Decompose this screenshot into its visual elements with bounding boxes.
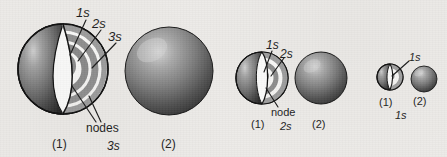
label-orbital-2s: 2s: [280, 121, 292, 132]
label-orbital-3s: 3s: [107, 140, 120, 152]
solid-sphere-1s: [411, 66, 437, 92]
figure-canvas: 1s 2s 3s nodes (1) (2) 3s 1s 2s node (1)…: [0, 0, 447, 157]
label-shell-3s-group-3s: 3s: [108, 30, 122, 43]
label-shell-2s-group-2s: 2s: [280, 48, 293, 60]
label-panel-2-group-2s: (2): [312, 119, 325, 130]
group-1s-cutaway-sphere: [376, 62, 406, 92]
label-node-group-2s: node: [271, 107, 295, 118]
label-shell-1s-group-1s: 1s: [409, 52, 421, 63]
label-panel-1-group-3s: (1): [52, 138, 67, 150]
label-shell-1s-group-3s: 1s: [76, 6, 90, 19]
label-panel-1-group-2s: (1): [251, 119, 264, 130]
label-shell-1s-group-2s: 1s: [266, 39, 279, 51]
solid-sphere-3s: [125, 27, 213, 115]
label-panel-2-group-1s: (2): [413, 96, 426, 107]
label-panel-2-group-3s: (2): [161, 138, 176, 150]
group-2s-solid-sphere: [295, 52, 347, 104]
group-3s-cutaway-sphere: [14, 20, 114, 120]
label-shell-2s-group-3s: 2s: [92, 17, 106, 30]
label-nodes-group-3s: nodes: [86, 122, 119, 134]
label-panel-1-group-1s: (1): [379, 97, 392, 108]
orbital-figure-svg: [0, 0, 447, 157]
solid-sphere-2s: [295, 52, 347, 104]
group-3s-solid-sphere: [125, 27, 213, 115]
group-1s-solid-sphere: [411, 66, 437, 92]
label-orbital-1s: 1s: [395, 110, 407, 121]
